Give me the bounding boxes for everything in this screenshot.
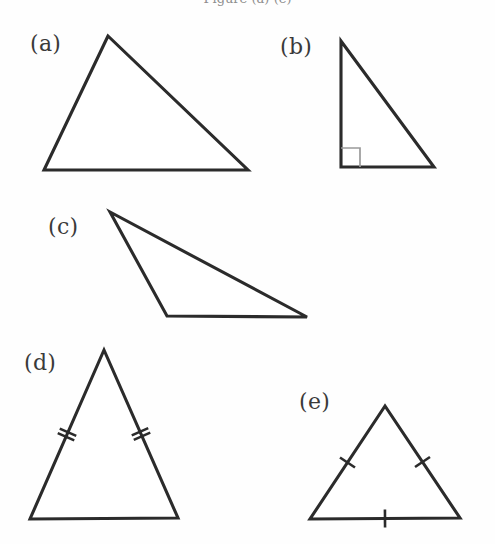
triangle-outline-a [44, 36, 248, 170]
triangles-canvas [0, 0, 495, 544]
triangle-a [44, 36, 248, 170]
figure-label-c: (c) [48, 216, 78, 238]
triangle-outline-e [310, 406, 460, 519]
figure-label-b: (b) [280, 36, 312, 58]
triangle-e [310, 406, 460, 528]
triangle-d [30, 350, 178, 519]
figure-label-d: (d) [24, 352, 56, 374]
triangle-outline-c [110, 212, 307, 317]
triangle-outline-d [30, 350, 178, 519]
figure-label-a: (a) [30, 33, 61, 55]
figure-label-e: (e) [299, 391, 330, 413]
triangle-figure: Figure (a)-(e) (a) (b) (c) (d) (e) [0, 0, 495, 544]
triangle-b [341, 41, 434, 167]
triangle-c [110, 212, 307, 317]
